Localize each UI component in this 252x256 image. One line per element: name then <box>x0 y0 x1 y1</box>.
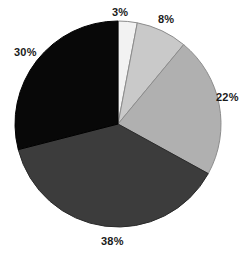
pie-slice-label-4: 38% <box>101 236 124 247</box>
pie-slice-label-5: 30% <box>14 47 37 58</box>
pie-chart-canvas <box>0 0 252 256</box>
pie-slice-label-3: 22% <box>216 92 239 103</box>
pie-slice-label-1: 3% <box>112 7 128 18</box>
pie-chart-figure: 3% 8% 22% 38% 30% <box>0 0 252 256</box>
pie-slice-group <box>15 21 221 227</box>
pie-slice-label-2: 8% <box>158 14 174 25</box>
